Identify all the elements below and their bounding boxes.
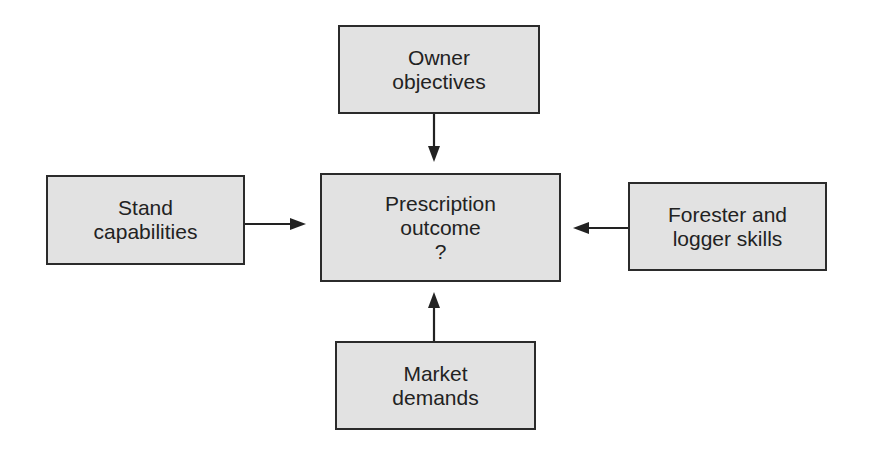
arrow-left-icon	[573, 222, 628, 234]
owner-objectives-line-1: Owner	[408, 46, 470, 70]
stand-capabilities-line-1: Stand	[118, 196, 173, 220]
stand-capabilities-box: Stand capabilities	[46, 175, 245, 265]
forester-logger-skills-line-1: Forester and	[668, 203, 787, 227]
prescription-outcome-line-3: ?	[435, 240, 447, 264]
market-demands-line-2: demands	[392, 386, 478, 410]
arrow-up-icon	[428, 292, 440, 341]
market-demands-box: Market demands	[335, 341, 536, 430]
market-demands-line-1: Market	[403, 362, 467, 386]
prescription-outcome-box: Prescription outcome ?	[320, 173, 561, 282]
prescription-outcome-line-1: Prescription	[385, 192, 496, 216]
arrow-right-icon	[245, 218, 306, 230]
prescription-outcome-line-2: outcome	[400, 216, 481, 240]
arrow-down-icon	[428, 114, 440, 162]
forester-logger-skills-line-2: logger skills	[673, 227, 783, 251]
forester-logger-skills-box: Forester and logger skills	[628, 182, 827, 271]
owner-objectives-box: Owner objectives	[338, 25, 540, 114]
owner-objectives-line-2: objectives	[392, 70, 485, 94]
prescription-influence-diagram: Owner objectives Stand capabilities Pres…	[0, 0, 870, 456]
stand-capabilities-line-2: capabilities	[94, 220, 198, 244]
